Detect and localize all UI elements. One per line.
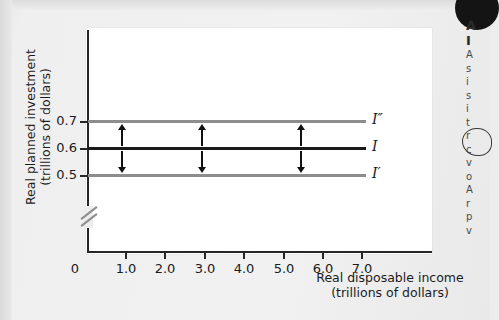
x-tick-label-3: 3.0 [185, 261, 225, 276]
margin-heading: A I [466, 18, 490, 48]
x-tick-label-5: 5.0 [264, 261, 304, 276]
x-tick-5 [283, 251, 285, 259]
y-axis-title-line1: Real planned investment [23, 49, 38, 205]
x-axis-title-line1: Real disposable income [316, 270, 463, 285]
margin-callout-bubble [462, 128, 492, 156]
plot-panel [88, 30, 430, 252]
x-axis [87, 251, 432, 253]
x-tick-7 [361, 251, 363, 259]
shift-up-arrow [296, 124, 305, 146]
x-tick-label-1: 1.0 [106, 261, 146, 276]
investment-line-lower-label: I′ [372, 165, 381, 181]
shift-up-arrow [117, 124, 126, 146]
x-tick-2 [164, 251, 166, 259]
shift-up-arrow [197, 124, 206, 146]
x-tick-label-0: 0 [55, 261, 95, 276]
x-tick-label-2: 2.0 [145, 261, 185, 276]
shift-down-arrow [296, 151, 305, 173]
y-axis-title: Real planned investment (trillions of do… [23, 27, 53, 227]
investment-line-middle-label: I [372, 138, 378, 154]
y-tick-2 [80, 175, 88, 177]
x-axis-title: Real disposable income (trillions of dol… [300, 270, 480, 300]
investment-line-upper [88, 120, 366, 123]
x-axis-title-line2: (trillions of dollars) [331, 285, 449, 300]
x-tick-6 [322, 251, 324, 259]
y-axis-title-line2: (trillions of dollars) [38, 68, 53, 186]
x-tick-4 [243, 251, 245, 259]
x-tick-label-4: 4.0 [224, 261, 264, 276]
shift-down-arrow [197, 151, 206, 173]
x-tick-3 [204, 251, 206, 259]
y-tick-1 [80, 148, 88, 150]
page-top-edge [0, 0, 490, 10]
investment-line-lower [88, 174, 366, 177]
shift-down-arrow [117, 151, 126, 173]
y-tick-0 [80, 121, 88, 123]
x-tick-1 [125, 251, 127, 259]
page-left-edge [0, 0, 12, 320]
investment-line-middle [88, 147, 366, 150]
axis-break-icon [78, 204, 100, 230]
investment-line-upper-label: I″ [372, 111, 383, 127]
